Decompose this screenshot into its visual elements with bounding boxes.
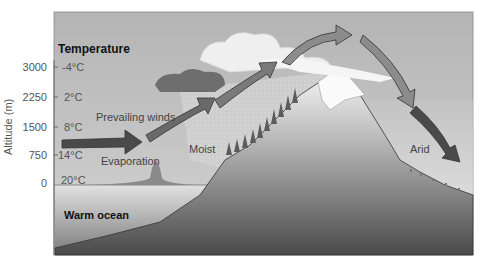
prevailing-winds-label: Prevailing winds: [96, 111, 175, 123]
temperature-value: -4°C: [62, 61, 84, 73]
altitude-tick: 1500: [3, 121, 47, 133]
altitude-tick: 0: [3, 177, 47, 189]
temperature-value: 20°C: [61, 174, 86, 186]
altitude-tick: 2250: [3, 91, 47, 103]
temperature-value: 14°C: [58, 149, 83, 161]
altitude-tick: 3000: [3, 61, 47, 73]
moist-label: Moist: [189, 143, 215, 155]
warm-ocean-label: Warm ocean: [64, 209, 129, 221]
altitude-tick: 750: [3, 149, 47, 161]
temperature-heading: Temperature: [58, 42, 130, 56]
temperature-value: 8°C: [64, 121, 82, 133]
arid-label: Arid: [410, 143, 430, 155]
evaporation-label: Evaporation: [101, 155, 160, 167]
temperature-value: 2°C: [64, 91, 82, 103]
